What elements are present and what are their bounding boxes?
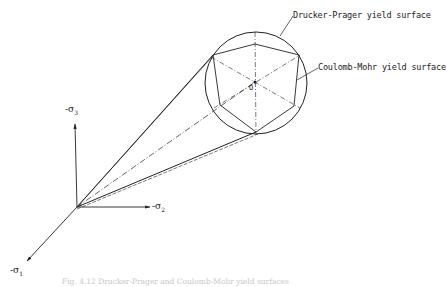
center-point [253,80,256,83]
coulomb-mohr-label: Coulomb-Mohr yield surface [318,62,446,72]
axis-label-sigma1: -σ1 [10,265,23,277]
leader-coulomb-mohr [297,68,318,80]
coulomb-mohr-hexagon [213,44,299,132]
generator-lower [77,132,256,207]
stress-axes [27,124,150,261]
yield-surface-diagram [0,0,447,287]
axis-label-sigma2: -σ2 [152,201,165,213]
hydrostatic-axis [77,82,255,207]
figure-caption: Fig. 4.12 Drucker-Prager and Coulomb-Moh… [62,277,382,287]
generator-lower-2 [77,134,258,209]
drucker-prager-label: Drucker-Prager yield surface [293,10,431,20]
cone-generators [77,55,258,209]
axis-label-sigma3: -σ3 [65,104,78,116]
axis-sigma1 [27,207,77,261]
leader-drucker-prager [280,16,293,36]
axis-sigma3 [75,124,77,207]
generator-upper-2 [77,58,211,207]
center-label: O [249,84,253,92]
